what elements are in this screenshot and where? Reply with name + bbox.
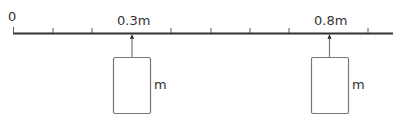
mass-label-1: m [154,78,167,91]
position-label-1: 0.3m [117,14,150,27]
origin-label: 0 [8,10,16,23]
mass-label-2: m [352,78,365,91]
hanging-mass-1 [114,34,151,114]
position-label-2: 0.8m [314,14,347,27]
hanging-mass-2 [312,34,349,114]
